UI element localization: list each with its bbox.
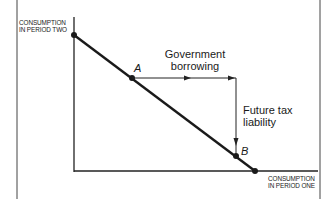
y-axis-label-line-1: CONSUMPTION [19, 19, 67, 26]
x-axis-label: CONSUMPTION IN PERIOD ONE [268, 175, 315, 189]
x-axis-label-line-1: CONSUMPTION [268, 175, 315, 182]
borrowing-arrow-mid-head-icon [184, 76, 191, 81]
tax-label-line-2: liability [243, 116, 293, 128]
borrowing-arrow-end-head-icon [228, 76, 235, 81]
government-borrowing-label: Government borrowing [150, 48, 240, 72]
x-intercept-dot [252, 168, 258, 174]
tax-label-line-1: Future tax [243, 104, 293, 116]
borrowing-label-line-1: Government [150, 48, 240, 60]
point-b-label: B [241, 145, 248, 157]
future-tax-liability-label: Future tax liability [243, 104, 293, 128]
tax-arrow-head-icon [234, 138, 239, 146]
x-axis-label-line-2: IN PERIOD ONE [268, 182, 315, 189]
borrowing-label-line-2: borrowing [150, 60, 240, 72]
point-a-label: A [134, 62, 141, 74]
y-intercept-dot [71, 32, 77, 38]
y-axis-label-line-2: IN PERIOD TWO [19, 26, 67, 33]
y-axis-label: CONSUMPTION IN PERIOD TWO [19, 19, 67, 33]
